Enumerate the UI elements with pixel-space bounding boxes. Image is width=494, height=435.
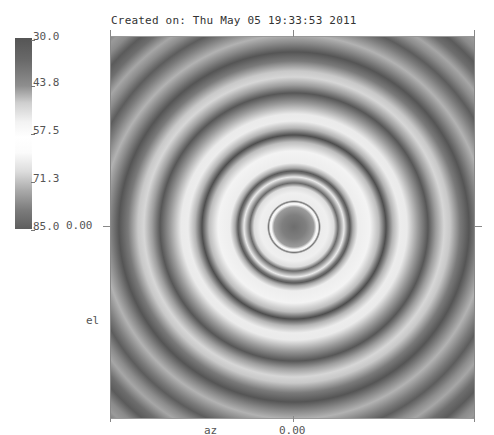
x-axis-label: az [204,424,217,435]
right-center-tick [474,226,482,227]
colorbar-label-57: 57.5 [33,124,60,137]
x-tick-label: 0.00 [279,424,306,435]
colorbar [15,38,32,229]
colorbar-label-43: 43.8 [33,76,60,89]
colorbar-label-71: 71.3 [33,172,60,185]
y-axis-label: el [86,314,99,327]
left-center-tick [103,226,110,227]
top-center-tick [293,30,294,37]
chart-title: Created on: Thu May 05 19:33:53 2011 [111,14,357,27]
y-tick-label: 0.00 [66,219,93,232]
plot-area [110,36,474,419]
colorbar-label-30: 30.0 [33,30,60,43]
left-axis-line [110,30,111,422]
bottom-center-tick [293,416,294,422]
interference-rings-heatmap [110,37,474,418]
colorbar-label-85: 85.0 [33,220,60,233]
